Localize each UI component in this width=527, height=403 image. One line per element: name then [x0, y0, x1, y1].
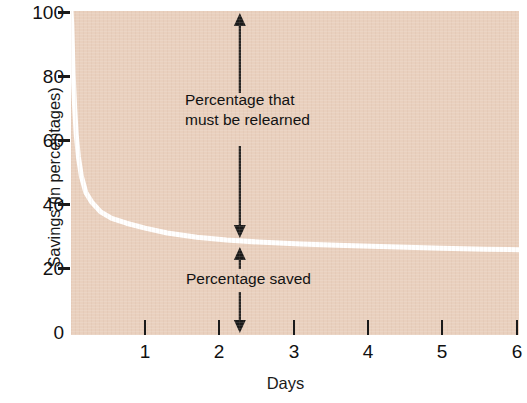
x-tick-mark-4 [367, 320, 369, 335]
x-tick-label-2: 2 [199, 341, 239, 363]
relearn-arrow-head-up [234, 13, 246, 26]
annotation-relearned: Percentage that must be relearned [185, 90, 310, 130]
forgetting-curve-chart: Savings (in percentages) 100 80 60 40 20… [0, 0, 527, 403]
y-tick-label-20: 20 [8, 259, 64, 278]
x-tick-mark-2 [218, 320, 220, 335]
y-tick-label-80: 80 [8, 67, 64, 86]
x-tick-label-3: 3 [274, 341, 314, 363]
annotation-saved: Percentage saved [186, 269, 311, 289]
annotation-saved-line1: Percentage saved [186, 270, 311, 287]
x-tick-label-4: 4 [348, 341, 388, 363]
x-tick-mark-3 [293, 320, 295, 335]
x-tick-label-5: 5 [422, 341, 462, 363]
y-tick-label-40: 40 [8, 195, 64, 214]
x-tick-label-6: 6 [497, 341, 527, 363]
x-tick-label-1: 1 [125, 341, 165, 363]
y-tick-mark-60 [58, 139, 70, 142]
relearn-arrow-head-down [234, 225, 246, 238]
y-tick-mark-40 [58, 203, 70, 206]
x-tick-mark-5 [441, 320, 443, 335]
saved-arrow-head-up [234, 247, 246, 260]
x-axis-title: Days [0, 374, 527, 393]
savings-curve [71, 11, 519, 250]
x-tick-mark-1 [144, 320, 146, 335]
y-tick-label-100: 100 [8, 3, 64, 22]
annotation-relearned-line2: must be relearned [185, 111, 310, 128]
y-tick-label-0: 0 [8, 323, 64, 342]
y-tick-mark-80 [58, 75, 70, 78]
saved-arrow-head-down [234, 320, 246, 333]
y-tick-mark-20 [58, 267, 70, 270]
x-tick-mark-6 [516, 320, 518, 335]
annotation-relearned-line1: Percentage that [185, 91, 294, 108]
y-tick-label-60: 60 [8, 131, 64, 150]
y-tick-mark-100 [58, 11, 70, 14]
